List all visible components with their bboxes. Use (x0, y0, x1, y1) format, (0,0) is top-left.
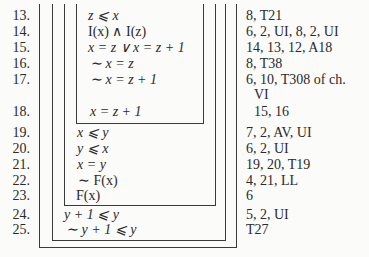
formula: y ⩽ x (77, 141, 108, 157)
formula: x = z ∨ x = z + 1 (88, 40, 185, 56)
proof-line-25: 25. ∼ y + 1 ⩽ y T27 (0, 222, 369, 238)
line-number: 22. (0, 173, 30, 189)
justification: 4, 21, LL (246, 173, 298, 189)
formula: z ⩽ x (88, 8, 119, 24)
line-number: 17. (0, 72, 30, 88)
proof-line-17-continuation: VI (0, 87, 369, 103)
formula: ∼ F(x) (78, 173, 118, 189)
line-number: 14. (0, 24, 30, 40)
justification: T27 (246, 222, 269, 238)
justification: 8, T21 (246, 8, 282, 24)
line-number: 23. (0, 188, 30, 204)
line-number: 15. (0, 40, 30, 56)
formula: ∼ y + 1 ⩽ y (66, 222, 136, 238)
justification: 14, 13, 12, A18 (246, 40, 332, 56)
justification: 6, 2, UI, 8, 2, UI (246, 24, 339, 40)
justification: 6, 2, UI (246, 141, 289, 157)
proof-line-16: 16. ∼ x = z 8, T38 (0, 56, 369, 72)
proof-line-19: 19. x ⩽ y 7, 2, AV, UI (0, 125, 369, 141)
proof-line-21: 21. x = y 19, 20, T19 (0, 157, 369, 173)
proof-line-13: 13. z ⩽ x 8, T21 (0, 8, 369, 24)
line-number: 18. (0, 104, 30, 120)
justification: 7, 2, AV, UI (246, 125, 312, 141)
line-number: 19. (0, 125, 30, 141)
formula: I(x) ∧ I(z) (88, 24, 146, 40)
proof-line-17: 17. ∼ x = z + 1 6, 10, T308 of ch. (0, 72, 369, 88)
justification: 8, T38 (246, 56, 282, 72)
proof-block: 13. z ⩽ x 8, T21 14. I(x) ∧ I(z) 6, 2, U… (0, 0, 369, 257)
justification: 19, 20, T19 (246, 157, 310, 173)
proof-line-20: 20. y ⩽ x 6, 2, UI (0, 141, 369, 157)
line-number: 13. (0, 8, 30, 24)
formula: x = y (77, 157, 106, 173)
line-number: 21. (0, 157, 30, 173)
line-number: 16. (0, 56, 30, 72)
proof-line-18: 18. x = z + 1 15, 16 (0, 104, 369, 120)
justification: 6, 10, T308 of ch. (246, 72, 346, 88)
proof-line-14: 14. I(x) ∧ I(z) 6, 2, UI, 8, 2, UI (0, 24, 369, 40)
proof-line-23: 23. F(x) 6 (0, 188, 369, 204)
justification: 5, 2, UI (246, 207, 289, 223)
justification: 6 (246, 188, 253, 204)
formula: y + 1 ⩽ y (64, 207, 119, 223)
formula: x ⩽ y (77, 125, 108, 141)
formula: ∼ x = z + 1 (90, 72, 157, 88)
formula: F(x) (76, 188, 100, 204)
formula: x = z + 1 (90, 104, 142, 120)
proof-line-15: 15. x = z ∨ x = z + 1 14, 13, 12, A18 (0, 40, 369, 56)
proof-line-24: 24. y + 1 ⩽ y 5, 2, UI (0, 207, 369, 223)
line-number: 24. (0, 207, 30, 223)
justification-continuation: VI (254, 87, 269, 103)
proof-line-22: 22. ∼ F(x) 4, 21, LL (0, 173, 369, 189)
line-number: 25. (0, 222, 30, 238)
formula: ∼ x = z (90, 56, 134, 72)
justification: 15, 16 (254, 104, 289, 120)
line-number: 20. (0, 141, 30, 157)
